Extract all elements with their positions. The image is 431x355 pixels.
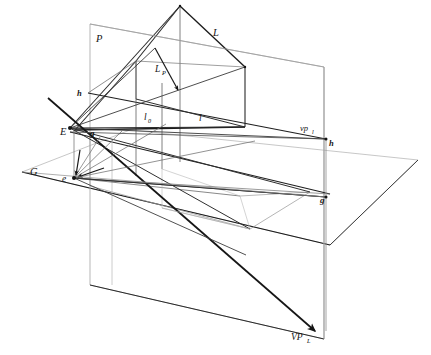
point-E-marker (68, 126, 72, 130)
perspective-diagram-canvas: P G E e g g h h L L P l 0 l vp l (0, 0, 431, 355)
point-eave-marker (244, 66, 246, 68)
diagram-svg: P G E e g g h h L L P l 0 l vp l (0, 0, 431, 355)
point-e-marker (72, 176, 76, 180)
label-eye-point: E (59, 126, 67, 137)
label-line-LP-subscript: P (161, 69, 166, 76)
label-line-l: l (199, 113, 202, 123)
point-apex-marker (179, 5, 181, 7)
label-line-l0: l (144, 112, 147, 122)
point-g-right-marker (325, 196, 328, 199)
label-picture-plane: P (95, 33, 103, 44)
label-eye-ground: e (62, 174, 66, 184)
label-vp-l: vp (300, 123, 308, 133)
label-vp-L: VP (291, 332, 303, 342)
label-ground-line-right: g (319, 195, 325, 205)
label-horizon-right: h (329, 138, 334, 148)
label-ground-line-left: g (89, 128, 95, 138)
label-vp-l-subscript: l (312, 128, 314, 135)
label-vp-L-subscript: L (306, 337, 311, 344)
label-horizon-left: h (77, 88, 82, 98)
point-vpl-marker (325, 138, 328, 141)
label-ground-plane: G (30, 166, 38, 177)
label-line-LP: L (154, 64, 160, 74)
label-line-L: L (212, 27, 219, 38)
